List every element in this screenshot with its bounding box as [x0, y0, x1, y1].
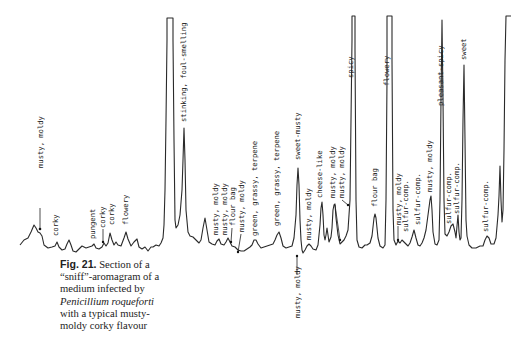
peak-label: green, grassy, terpene — [272, 131, 281, 226]
peak-label: musty, moldy — [425, 139, 434, 192]
figure-number: Fig. 21. — [60, 258, 97, 270]
arrow-head-icon — [102, 241, 104, 243]
aromagram-figure: musty, moldy corky pungent corky corky f… — [0, 0, 511, 343]
peak-label: musty, moldy — [337, 145, 346, 198]
arrow-icon — [231, 228, 232, 242]
caption-species: Penicillium roqueforti — [60, 296, 154, 307]
peak-label: sulfur-comp. — [401, 180, 410, 232]
peak-label: sweet — [459, 38, 468, 60]
arrow-head-icon — [397, 239, 399, 241]
peak-label: corky — [98, 206, 107, 228]
peak-label: corky — [107, 203, 116, 225]
peak-label: cheese-like — [315, 150, 324, 198]
peak-label: sulfur-comp. — [413, 173, 422, 225]
figure-caption: Fig. 21. Section of a “sniff”-aromagram … — [60, 258, 172, 332]
peak-label: flour bag — [370, 168, 379, 207]
peak-label: musty, moldy — [293, 265, 302, 318]
peak-label: musty, moldy — [237, 179, 246, 232]
peak-label: flowery — [382, 55, 391, 86]
peak-label: musty, moldy — [304, 187, 313, 240]
arrow-head-icon — [347, 204, 349, 206]
peak-label: sulfur-comp. — [452, 162, 461, 214]
peak-label: flowery — [121, 194, 130, 225]
arrow-head-icon — [339, 239, 341, 241]
arrow-head-icon — [237, 251, 239, 253]
arrow-head-icon — [296, 255, 298, 257]
peak-label: flour bag — [228, 187, 237, 226]
caption-text-end: with a typical musty-moldy corky flavour — [60, 308, 150, 331]
arrow-icon — [238, 234, 241, 252]
peak-label: pleasant-spicy — [436, 45, 445, 106]
peak-label: sweet-musty — [293, 112, 302, 160]
peak-label: corky — [51, 214, 60, 236]
peak-label: stinking, foul-smelling — [179, 22, 188, 122]
peak-label: spicy — [346, 56, 355, 78]
peak-label: sulfur-comp. — [481, 180, 490, 232]
peak-label: musty, moldy — [36, 115, 45, 168]
peak-label: musty, moldy — [328, 145, 337, 198]
peak-label: green, grassy, terpene — [250, 141, 259, 236]
peak-label: pungent — [88, 209, 97, 239]
arrow-head-icon — [39, 228, 42, 231]
arrow-head-icon — [230, 241, 232, 243]
peak-label: musty, moldy — [211, 182, 220, 235]
